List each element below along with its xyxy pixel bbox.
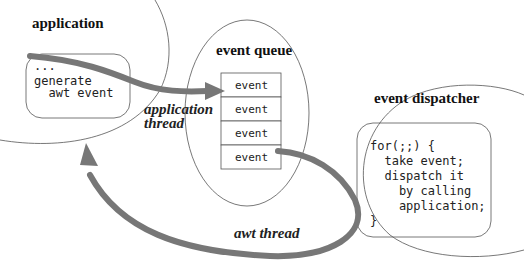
dispatcher-code-line-2: take event; xyxy=(370,154,464,168)
application-code-line-3: awt event xyxy=(34,86,113,100)
event-queue-stack: event event event event xyxy=(221,73,281,169)
event-dispatcher-title: event dispatcher xyxy=(374,90,480,106)
queue-event-2: event xyxy=(235,103,268,116)
application-thread-label-2: thread xyxy=(144,115,185,131)
awt-thread-arrow: awt thread xyxy=(80,143,358,256)
dispatcher-code-line-1: for(;;) { xyxy=(370,139,435,153)
dispatcher-code-line-3: dispatch it xyxy=(370,169,464,183)
event-dispatcher-region: event dispatcher for(;;) { take event; d… xyxy=(357,85,524,257)
queue-event-3: event xyxy=(235,127,268,140)
queue-event-1: event xyxy=(235,79,268,92)
event-queue-title: event queue xyxy=(216,42,293,58)
threading-diagram: application ... generate awt event event… xyxy=(0,0,524,270)
queue-event-4: event xyxy=(235,151,268,164)
arrowhead-icon xyxy=(80,143,98,166)
awt-thread-label: awt thread xyxy=(234,225,300,241)
dispatcher-code-line-6: } xyxy=(370,214,377,228)
application-title: application xyxy=(32,15,104,31)
dispatcher-code-line-4: by calling xyxy=(370,184,471,198)
dispatcher-code-line-5: application; xyxy=(370,199,486,213)
